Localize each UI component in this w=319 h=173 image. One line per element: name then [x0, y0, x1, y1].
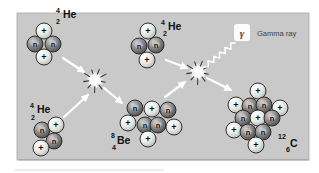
mass-number: 8	[111, 132, 115, 139]
proton-sign: +	[149, 104, 154, 114]
panel-shadow	[19, 159, 309, 161]
proton: +	[139, 52, 155, 68]
proton: +	[48, 117, 64, 133]
proton: +	[166, 119, 182, 135]
neutron-sign: n	[40, 126, 45, 135]
neutron-sign: n	[33, 40, 38, 49]
diagram-canvas: +nn+42He+nn+42Hen+n+42Hen+n+nn++84Be++nn…	[0, 0, 319, 173]
neutron-sign: n	[248, 102, 253, 111]
neutron-sign: n	[133, 104, 138, 113]
proton-sign: +	[41, 26, 46, 36]
proton-sign: +	[255, 86, 260, 96]
element-symbol: Be	[117, 134, 131, 146]
neutron-sign: n	[262, 101, 267, 110]
element-symbol: He	[37, 103, 51, 115]
proton: +	[120, 115, 136, 131]
neutron: n	[127, 100, 143, 116]
neutron-sign: n	[137, 42, 142, 51]
mass-number: 4	[30, 102, 34, 109]
proton-sign: +	[145, 134, 150, 144]
neutron: n	[131, 38, 147, 54]
element-symbol: He	[63, 8, 77, 20]
neutron-sign: n	[246, 128, 251, 137]
proton-sign: +	[171, 122, 176, 132]
proton: +	[33, 140, 49, 156]
neutron: n	[148, 37, 164, 53]
mass-number: 4	[161, 19, 165, 26]
proton-sign: +	[144, 55, 149, 65]
fusion-diagram: +nn+42He+nn+42Hen+n+42Hen+n+nn++84Be++nn…	[0, 0, 319, 173]
proton-sign: +	[231, 125, 236, 135]
gamma-ray-label: Gamma ray	[257, 29, 296, 38]
neutron-sign: n	[52, 137, 57, 146]
element-symbol: C	[290, 137, 298, 149]
proton-sign: +	[277, 103, 282, 113]
proton-sign: +	[38, 143, 43, 153]
neutron-sign: n	[156, 121, 161, 130]
proton: +	[144, 101, 160, 117]
proton: +	[226, 122, 242, 138]
neutron-sign: n	[143, 121, 148, 130]
mass-number: 4	[56, 7, 60, 14]
neutron-sign: n	[154, 41, 159, 50]
atomic-number: 4	[112, 144, 116, 151]
neutron-sign: n	[166, 106, 171, 115]
atomic-number: 2	[56, 18, 60, 25]
gamma-symbol: γ	[240, 27, 245, 39]
neutron: n	[264, 110, 280, 126]
neutron: n	[160, 102, 176, 118]
neutron-sign: n	[270, 114, 275, 123]
element-symbol: He	[168, 20, 182, 32]
proton: +	[140, 23, 156, 39]
mass-number: 12	[278, 133, 286, 140]
neutron: n	[150, 117, 166, 133]
atomic-number: 2	[163, 30, 167, 37]
neutron-sign: n	[261, 128, 266, 137]
atomic-number: 2	[31, 114, 35, 121]
proton-sign: +	[233, 100, 238, 110]
neutron-sign: n	[241, 114, 246, 123]
proton: +	[140, 131, 156, 147]
proton-sign: +	[41, 52, 46, 62]
proton-sign: +	[53, 120, 58, 130]
page-rule-line	[14, 170, 164, 171]
proton-sign: +	[253, 140, 258, 150]
proton: +	[36, 49, 52, 65]
proton: +	[248, 137, 264, 153]
neutron-sign: n	[51, 40, 56, 49]
proton-sign: +	[255, 113, 260, 123]
proton-sign: +	[145, 26, 150, 36]
proton-sign: +	[125, 118, 130, 128]
